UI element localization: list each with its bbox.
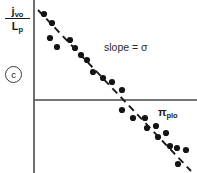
data-point bbox=[130, 115, 136, 121]
data-point bbox=[174, 145, 180, 151]
data-point bbox=[72, 45, 78, 51]
data-point bbox=[167, 143, 173, 149]
data-point bbox=[119, 107, 125, 113]
data-point bbox=[84, 57, 90, 63]
data-point bbox=[49, 20, 55, 26]
plot-canvas bbox=[0, 0, 197, 173]
data-point bbox=[100, 75, 106, 81]
data-point bbox=[54, 44, 60, 50]
data-point bbox=[142, 115, 148, 121]
data-point bbox=[183, 147, 189, 153]
data-point bbox=[67, 37, 73, 43]
data-point bbox=[175, 161, 181, 167]
data-point bbox=[109, 79, 115, 85]
data-point bbox=[90, 69, 96, 75]
data-point bbox=[155, 134, 161, 140]
data-point bbox=[47, 35, 53, 41]
data-points-group bbox=[41, 11, 189, 167]
data-point bbox=[78, 52, 84, 58]
data-point bbox=[163, 130, 169, 136]
data-point bbox=[119, 87, 125, 93]
data-point bbox=[144, 125, 150, 131]
scatter-plot-figure: jvo Lp c slope = σ πplo bbox=[0, 0, 197, 173]
data-point bbox=[41, 11, 47, 17]
data-point bbox=[153, 123, 159, 129]
